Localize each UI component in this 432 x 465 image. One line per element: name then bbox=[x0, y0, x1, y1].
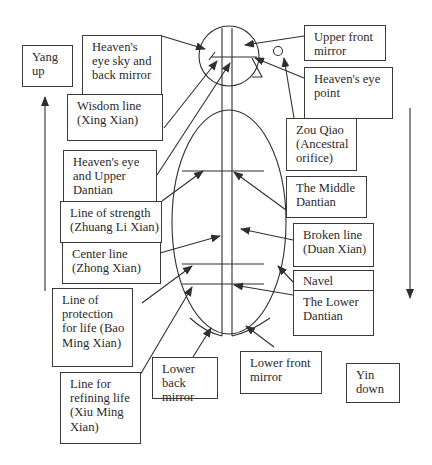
zou-qiao-circle bbox=[274, 47, 283, 56]
label-navel: Navel bbox=[293, 270, 374, 291]
arrow-lower-front-mirror bbox=[246, 326, 274, 347]
label-heavens-eye-sky-back-mirror: Heaven's eye sky and back mirror bbox=[82, 35, 162, 96]
label-center-line: Center line (Zhong Xian) bbox=[62, 242, 161, 284]
label-yin-down: Yin down bbox=[346, 363, 400, 403]
sky-mirror-slash bbox=[209, 52, 215, 60]
lower-back-mirror-curve bbox=[190, 318, 222, 336]
label-line-of-protection: Line of protection for life (Bao Ming Xi… bbox=[52, 288, 133, 367]
arrow-zou-qiao bbox=[284, 58, 294, 118]
label-line-of-strength: Line of strength (Zhuang Li Xian) bbox=[60, 201, 162, 243]
arrow-lower-back-mirror bbox=[193, 328, 211, 357]
head-circle bbox=[199, 26, 259, 86]
label-yang-up: Yang up bbox=[22, 45, 73, 87]
label-lower-dantian: The Lower Dantian bbox=[293, 290, 374, 336]
label-wisdom-line: Wisdom line (Xing Xian) bbox=[67, 94, 163, 141]
lower-front-mirror-curve bbox=[232, 318, 270, 336]
arrow-upper-front-mirror bbox=[245, 36, 304, 45]
label-middle-dantian: The Middle Dantian bbox=[286, 176, 367, 218]
label-line-for-refining-life: Line for refining life (Xiu Ming Xian) bbox=[60, 372, 141, 444]
arrow-middle-dantian bbox=[234, 172, 286, 210]
label-heavens-eye-upper-dantian: Heaven's eye and Upper Dantian bbox=[63, 150, 157, 202]
label-lower-front-mirror: Lower front mirror bbox=[240, 351, 322, 394]
arrow-lower-dantian bbox=[234, 285, 293, 295]
label-broken-line: Broken line (Duan Xian) bbox=[293, 223, 374, 267]
arrow-navel bbox=[278, 266, 293, 282]
arrow-line-of-strength bbox=[162, 171, 203, 201]
arrow-upper-dantian bbox=[157, 63, 230, 175]
label-upper-front-mirror: Upper front mirror bbox=[304, 25, 386, 61]
arrow-heavens-eye-point bbox=[255, 58, 304, 78]
label-lower-back-mirror: Lower back mirror bbox=[152, 357, 218, 399]
arrow-center-line bbox=[160, 236, 220, 253]
label-zou-qiao: Zou Qiao (Ancestral orifice) bbox=[286, 118, 357, 171]
body-ellipse bbox=[172, 110, 286, 334]
label-heavens-eye-point: Heaven's eye point bbox=[304, 67, 393, 119]
arrow-heavens-eye-sky bbox=[162, 36, 205, 49]
